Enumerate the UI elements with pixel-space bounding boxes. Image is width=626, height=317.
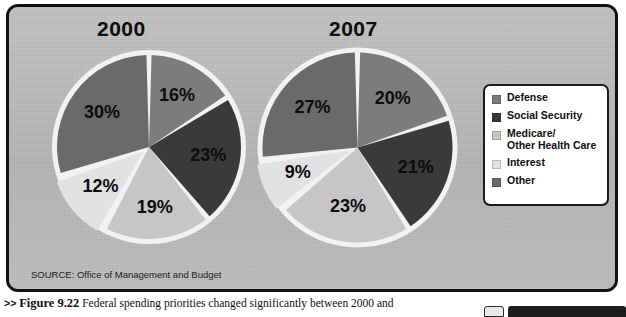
figure-root: 2000 2007 16%23%19%12%30% 20%21%23%9%27%…: [0, 0, 626, 317]
pie-chart-2007: 20%21%23%9%27%: [255, 45, 460, 250]
figure-caption: >> Figure 9.22 Federal spending prioriti…: [4, 296, 474, 310]
legend-label-social-security: Social Security: [507, 110, 582, 122]
legend-swatch-social-security: [492, 113, 501, 122]
pie-chart-2000: 16%23%19%12%30%: [49, 47, 249, 247]
pie-slice-label: 12%: [82, 176, 118, 196]
black-bar: [508, 306, 626, 317]
pie-svg: 16%23%19%12%30%: [49, 47, 249, 247]
pie-slice-label: 16%: [159, 85, 195, 105]
legend-item-interest: Interest: [492, 157, 601, 169]
pie-slice-label: 9%: [285, 162, 311, 182]
legend-label-interest: Interest: [507, 157, 545, 169]
figure-panel: 2000 2007 16%23%19%12%30% 20%21%23%9%27%…: [6, 4, 618, 292]
pie-slice-label: 23%: [190, 145, 226, 165]
pie-slice-label: 19%: [137, 197, 173, 217]
chart-title-2007: 2007: [329, 17, 378, 41]
legend-item-social-security: Social Security: [492, 110, 601, 122]
caption-figure-number: Figure 9.22: [19, 296, 79, 310]
legend-item-medicare: Medicare/Other Health Care: [492, 128, 601, 151]
legend-swatch-medicare: [492, 131, 501, 140]
chart-title-2000: 2000: [97, 17, 146, 41]
pie-slice-label: 27%: [294, 97, 330, 117]
legend-item-defense: Defense: [492, 92, 601, 104]
legend-label-medicare: Medicare/Other Health Care: [507, 128, 596, 151]
page-icon: [484, 306, 504, 317]
legend-swatch-defense: [492, 95, 501, 104]
caption-arrows: >>: [4, 297, 16, 309]
source-note: SOURCE: Office of Management and Budget: [31, 269, 221, 280]
legend-label-other: Other: [507, 175, 535, 187]
pie-svg: 20%21%23%9%27%: [255, 45, 460, 250]
caption-text: Federal spending priorities changed sign…: [79, 297, 393, 309]
pie-slice-label: 21%: [398, 157, 434, 177]
legend-box: Defense Social Security Medicare/Other H…: [483, 84, 609, 206]
pie-slice-label: 23%: [330, 196, 366, 216]
bottom-right-widget[interactable]: [484, 306, 626, 317]
pie-slice-label: 30%: [84, 102, 120, 122]
legend-item-other: Other: [492, 175, 601, 187]
legend-label-defense: Defense: [507, 92, 548, 104]
legend-swatch-interest: [492, 160, 501, 169]
legend-swatch-other: [492, 178, 501, 187]
pie-slice-label: 20%: [375, 88, 411, 108]
